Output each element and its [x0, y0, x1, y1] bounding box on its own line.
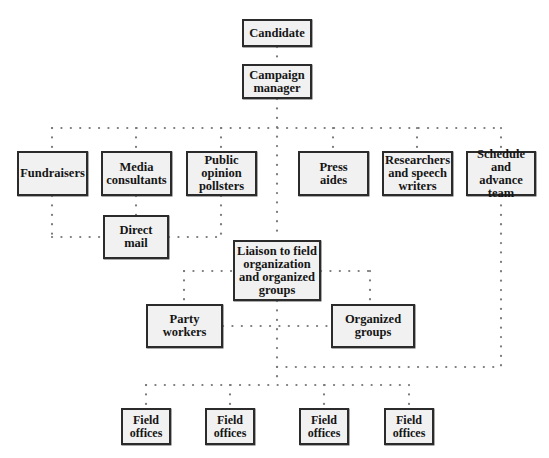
- node-liaison: Liaison to field organization and organi…: [233, 240, 321, 301]
- node-field-offices-4: Field offices: [384, 408, 434, 445]
- node-fundraisers: Fundraisers: [17, 151, 88, 196]
- node-field-offices-2: Field offices: [205, 408, 255, 445]
- node-campaign-manager: Campaign manager: [242, 64, 312, 99]
- node-party-workers: Party workers: [146, 304, 223, 348]
- node-public-opinion-pollsters: Public opinion pollsters: [186, 151, 257, 196]
- campaign-org-chart: Candidate Campaign manager Fundraisers M…: [0, 0, 549, 458]
- node-organized-groups: Organized groups: [331, 304, 415, 348]
- node-direct-mail: Direct mail: [103, 215, 169, 259]
- node-field-offices-3: Field offices: [299, 408, 349, 445]
- node-schedule-advance-team: Schedule and advance team: [466, 151, 536, 196]
- node-media-consultants: Media consultants: [101, 151, 172, 196]
- node-candidate: Candidate: [242, 19, 312, 47]
- node-researchers-speech-writers: Researchers and speech writers: [382, 151, 453, 196]
- node-field-offices-1: Field offices: [121, 408, 171, 445]
- node-press-aides: Press aides: [298, 151, 369, 196]
